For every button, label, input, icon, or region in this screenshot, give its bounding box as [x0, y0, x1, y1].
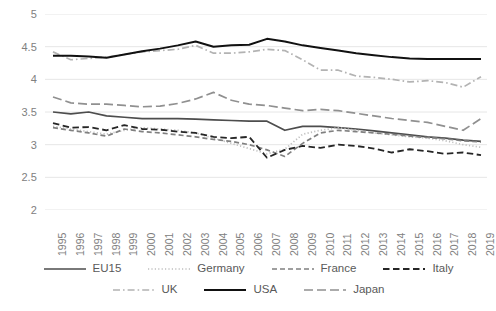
legend-item-eu15[interactable]: EU15	[43, 262, 122, 274]
legend-label: Italy	[432, 262, 453, 274]
x-tick-label: 2014	[396, 212, 407, 256]
x-tick-label: 2009	[307, 212, 318, 256]
legend-swatch-germany	[147, 263, 191, 274]
x-tick-label: 2011	[342, 212, 353, 256]
x-tick-label: 2012	[360, 212, 371, 256]
legend-item-japan[interactable]: Japan	[303, 283, 384, 295]
legend-swatch-uk	[112, 284, 156, 295]
y-tick-label: 3.5	[21, 107, 37, 118]
legend-label: EU15	[93, 262, 122, 274]
x-tick-label: 1998	[111, 212, 122, 256]
legend-item-usa[interactable]: USA	[203, 283, 277, 295]
legend-label: USA	[253, 283, 277, 295]
y-axis: 22.533.544.55	[0, 14, 41, 210]
x-tick-label: 2005	[235, 212, 246, 256]
legend-swatch-japan	[303, 284, 347, 295]
line-chart: 22.533.544.55 19951996199719981999200020…	[0, 0, 496, 311]
x-tick-label: 1995	[57, 212, 68, 256]
x-tick-label: 2003	[200, 212, 211, 256]
y-tick-label: 3	[31, 139, 37, 150]
legend-item-germany[interactable]: Germany	[147, 262, 244, 274]
x-tick-label: 1996	[75, 212, 86, 256]
y-tick-label: 4.5	[21, 41, 37, 52]
legend-label: France	[321, 262, 357, 274]
y-tick-label: 4	[31, 74, 37, 85]
x-tick-label: 2006	[253, 212, 264, 256]
series-line-uk	[53, 45, 481, 87]
y-tick-label: 2	[31, 205, 37, 216]
chart-legend: EU15GermanyFranceItaly UKUSAJapan	[0, 262, 496, 309]
x-tick-label: 2004	[218, 212, 229, 256]
plot-area	[45, 14, 487, 210]
legend-item-france[interactable]: France	[271, 262, 357, 274]
series-line-italy	[53, 123, 481, 158]
x-tick-label: 2002	[182, 212, 193, 256]
x-tick-label: 2018	[467, 212, 478, 256]
x-tick-label: 2013	[378, 212, 389, 256]
legend-label: UK	[162, 283, 178, 295]
x-tick-label: 1999	[128, 212, 139, 256]
x-tick-label: 2019	[485, 212, 496, 256]
series-line-japan	[53, 92, 481, 130]
x-tick-label: 2000	[146, 212, 157, 256]
legend-swatch-usa	[203, 284, 247, 295]
y-tick-label: 2.5	[21, 172, 37, 183]
x-tick-label: 2008	[289, 212, 300, 256]
series-line-usa	[53, 39, 481, 59]
x-axis: 1995199619971998199920002001200220032004…	[45, 212, 487, 260]
legend-swatch-france	[271, 263, 315, 274]
legend-label: Germany	[197, 262, 244, 274]
x-tick-label: 2010	[325, 212, 336, 256]
legend-row-bottom: UKUSAJapan	[0, 283, 496, 295]
legend-swatch-italy	[382, 263, 426, 274]
legend-item-italy[interactable]: Italy	[382, 262, 453, 274]
legend-row-top: EU15GermanyFranceItaly	[0, 262, 496, 274]
plot-svg	[45, 14, 487, 210]
series-line-france	[53, 128, 481, 157]
legend-label: Japan	[353, 283, 384, 295]
x-tick-label: 2007	[271, 212, 282, 256]
legend-swatch-eu15	[43, 263, 87, 274]
x-tick-label: 2016	[432, 212, 443, 256]
x-tick-label: 2015	[414, 212, 425, 256]
y-tick-label: 5	[31, 9, 37, 20]
legend-item-uk[interactable]: UK	[112, 283, 178, 295]
x-tick-label: 2001	[164, 212, 175, 256]
x-tick-label: 2017	[449, 212, 460, 256]
x-tick-label: 1997	[93, 212, 104, 256]
